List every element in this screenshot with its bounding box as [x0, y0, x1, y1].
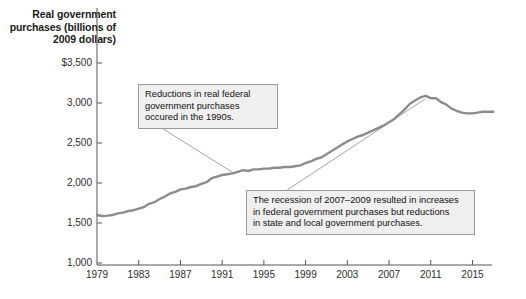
- x-tick-label: 2015: [447, 269, 497, 280]
- y-tick-label: 1,500: [30, 217, 92, 228]
- chart-figure: Real government purchases (billions of 2…: [0, 0, 526, 299]
- x-axis-ticks: [139, 260, 473, 265]
- y-axis-ticks: [97, 63, 102, 263]
- annotation-leader-line: [163, 129, 232, 172]
- annotation-callout-1990s: Reductions in real federal government pu…: [138, 84, 278, 129]
- y-tick-label: 3,000: [30, 97, 92, 108]
- y-tick-label: 2,500: [30, 137, 92, 148]
- y-tick-label: 2,000: [30, 177, 92, 188]
- annotation-leader-line: [287, 99, 425, 190]
- annotation-callout-recession: The recession of 2007–2009 resulted in i…: [246, 190, 475, 235]
- chart-plot-area: [0, 0, 526, 299]
- y-tick-label: 1,000: [30, 257, 92, 268]
- y-tick-label: $3,500: [30, 57, 92, 68]
